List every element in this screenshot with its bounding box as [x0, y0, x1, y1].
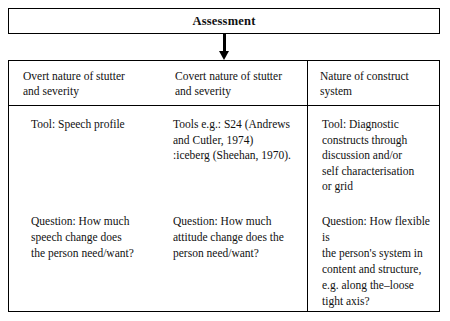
tool-line-2: and Cutler, 1974)	[173, 133, 301, 149]
tool-line-1: Tool: Speech profile	[31, 118, 125, 130]
question-line-3: content and structure,	[322, 261, 434, 277]
arrow-shaft	[223, 34, 226, 52]
column-construct-system: Nature of construct system Tool: Diagnos…	[308, 61, 440, 311]
diagram-canvas: Assessment Overt nature of stutter and s…	[0, 0, 450, 321]
question-line-3: person need/want?	[173, 245, 301, 261]
heading-line-2: and severity	[23, 85, 79, 97]
question-line-2: attitude change does the	[173, 229, 301, 245]
heading-line-2: system	[320, 85, 352, 97]
question-line-2: the person's system in	[322, 245, 434, 261]
heading-line-1: Covert nature of stutter	[175, 70, 282, 82]
heading-line-1: Overt nature of stutter	[23, 70, 125, 82]
column-question: Question: How flexible is the person's s…	[322, 213, 434, 309]
column-heading: Nature of construct system	[320, 69, 432, 99]
column-covert-nature: Covert nature of stutter and severity To…	[161, 61, 307, 311]
question-line-1: Question: How flexible is	[322, 215, 430, 243]
tool-line-2: constructs through	[322, 133, 434, 149]
column-heading: Overt nature of stutter and severity	[23, 69, 153, 99]
column-question: Question: How much speech change does th…	[31, 213, 155, 261]
column-question: Question: How much attitude change does …	[173, 213, 301, 261]
tool-line-3: discussion and/or	[322, 148, 434, 164]
tool-line-4: self characterisation	[322, 164, 434, 180]
tool-line-5: or grid	[322, 179, 434, 195]
tool-line-3: :iceberg (Sheehan, 1970).	[173, 148, 301, 164]
tool-line-1: Tools e.g.: S24 (Andrews	[173, 118, 290, 130]
question-line-1: Question: How much	[31, 215, 129, 227]
column-tool: Tool: Diagnostic constructs through disc…	[322, 117, 434, 195]
arrow-head	[219, 51, 229, 60]
column-tool: Tools e.g.: S24 (Andrews and Cutler, 197…	[173, 117, 301, 164]
heading-line-1: Nature of construct	[320, 70, 409, 82]
question-line-1: Question: How much	[173, 215, 271, 227]
tool-line-1: Tool: Diagnostic	[322, 118, 399, 130]
down-arrow-icon	[219, 34, 230, 60]
assessment-header-box: Assessment	[8, 8, 440, 34]
assessment-detail-box: Overt nature of stutter and severity Too…	[8, 60, 440, 312]
question-line-2: speech change does	[31, 229, 155, 245]
column-tool: Tool: Speech profile	[31, 117, 155, 133]
page-title: Assessment	[192, 14, 255, 29]
column-overt-nature: Overt nature of stutter and severity Too…	[9, 61, 161, 311]
heading-line-2: and severity	[175, 85, 231, 97]
question-line-5: tight axis?	[322, 293, 434, 309]
question-line-3: the person need/want?	[31, 245, 155, 261]
question-line-4: e.g. along the–loose	[322, 277, 434, 293]
column-heading: Covert nature of stutter and severity	[175, 69, 299, 99]
